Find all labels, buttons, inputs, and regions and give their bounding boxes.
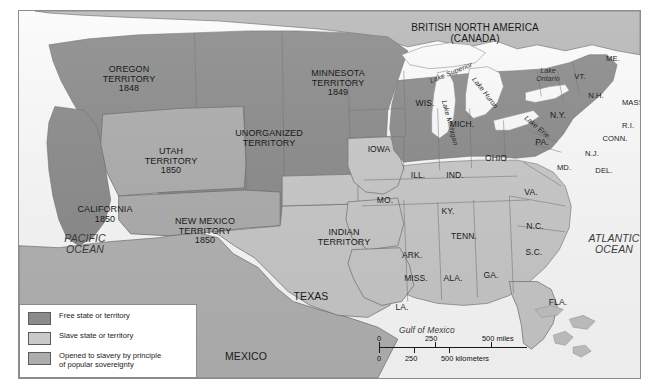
scale-label-miles-500: 500 miles xyxy=(482,334,514,343)
legend-label-slave: Slave state or territory xyxy=(59,331,133,340)
legend-item-free: Free state or territory xyxy=(28,311,190,325)
legend-label-popular-sovereignty: Opened to slavery by principle of popula… xyxy=(59,351,161,370)
scale-tick-km-500 xyxy=(449,347,450,353)
legend-swatch-free xyxy=(28,312,51,325)
legend-label-free: Free state or territory xyxy=(59,311,130,320)
legend-swatch-popular-sovereignty xyxy=(28,352,51,365)
scale-label-km-250: 250 xyxy=(405,354,417,363)
scale-axis-line xyxy=(379,347,527,348)
legend-item-popular-sovereignty: Opened to slavery by principle of popula… xyxy=(28,351,190,370)
map-legend: Free state or territory Slave state or t… xyxy=(19,304,197,378)
scale-tick-km-0 xyxy=(379,347,380,353)
legend-item-slave: Slave state or territory xyxy=(28,331,190,345)
historical-map-figure: BRITISH NORTH AMERICA (CANADA) OREGON TE… xyxy=(0,0,659,389)
map-scale-bar: 0 250 500 miles 0 250 500 kilometers xyxy=(379,336,544,370)
legend-swatch-slave xyxy=(28,332,51,345)
scale-label-miles-250: 250 xyxy=(425,334,437,343)
scale-tick-km-250 xyxy=(414,347,415,353)
scale-label-km-500: 500 kilometers xyxy=(441,354,489,363)
scale-label-km-0: 0 xyxy=(377,354,381,363)
scale-label-miles-0: 0 xyxy=(377,334,381,343)
